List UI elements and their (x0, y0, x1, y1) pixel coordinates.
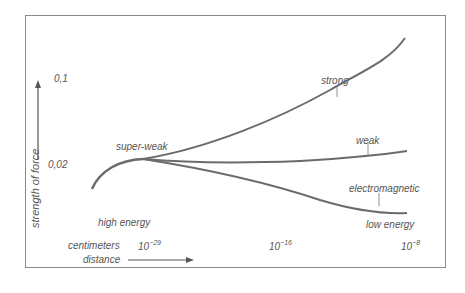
svg-text:10−29: 10−29 (138, 239, 161, 252)
annotation-low-energy: low energy (366, 219, 415, 230)
x-axis-label: distance (83, 254, 121, 265)
x-axis-arrow (128, 257, 194, 263)
force-strength-chart: strength of force 0,1 0,02 strong weak e… (0, 0, 465, 293)
y-axis-label: strength of force (29, 149, 41, 229)
y-tick-label: 0,1 (54, 73, 68, 84)
svg-text:10−8: 10−8 (401, 239, 420, 252)
annotation-super-weak: super-weak (116, 141, 169, 152)
annotation-high-energy: high energy (98, 217, 151, 228)
x-tick-label: 10−16 (269, 239, 292, 252)
y-axis-arrow (35, 80, 41, 160)
series-weak-line (143, 151, 407, 163)
series-label-weak: weak (356, 135, 380, 146)
x-unit-label: centimeters (68, 240, 120, 251)
x-tick-label: 10−8 (401, 239, 420, 252)
series-label-strong: strong (321, 75, 349, 86)
y-tick-label: 0,02 (48, 159, 68, 170)
x-tick-label: 10−29 (138, 239, 161, 252)
series-common-segment (92, 159, 143, 189)
series-label-electromagnetic: electromagnetic (349, 183, 420, 194)
svg-text:10−16: 10−16 (269, 239, 292, 252)
